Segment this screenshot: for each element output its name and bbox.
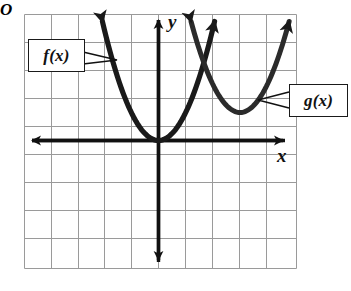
graph-figure: f(x) g(x) y x O	[0, 0, 351, 291]
x-axis-label: x	[277, 145, 287, 167]
function-label-g: g(x)	[289, 84, 348, 117]
function-label-f: f(x)	[28, 39, 85, 72]
function-label-g-text: g(x)	[304, 91, 333, 111]
y-axis-label: y	[168, 11, 176, 33]
function-label-f-text: f(x)	[43, 46, 69, 66]
